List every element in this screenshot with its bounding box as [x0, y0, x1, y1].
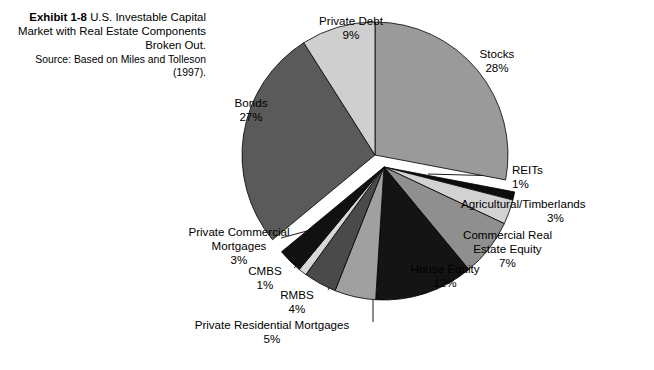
pie-label-reits-name: REITs — [512, 163, 582, 177]
pie-label-bonds-pct: 27% — [206, 110, 296, 124]
pie-label-private-commercial-mortgages-name-line1: Private Commercial — [175, 225, 303, 239]
figure-source: Source: Based on Miles and Tolleson (199… — [10, 53, 206, 80]
figure-caption: Exhibit 1-8 U.S. Investable Capital Mark… — [10, 10, 206, 80]
pie-label-reits-pct: 1% — [512, 177, 582, 191]
pie-label-private-debt-pct: 9% — [296, 28, 406, 42]
pie-label-stocks-name: Stocks — [452, 47, 542, 61]
pie-label-agricultural-timberlands-pct: 3% — [461, 211, 650, 225]
pie-label-bonds-name: Bonds — [206, 96, 296, 110]
pie-label-agricultural-timberlands-name: Agricultural/Timberlands — [461, 197, 650, 211]
pie-label-private-debt: Private Debt 9% — [296, 14, 406, 42]
pie-label-private-residential-mortgages-name: Private Residential Mortgages — [172, 318, 372, 332]
pie-label-rmbs-pct: 4% — [269, 302, 325, 316]
pie-label-agricultural-timberlands: Agricultural/Timberlands 3% — [461, 197, 650, 225]
pie-label-bonds: Bonds 27% — [206, 96, 296, 124]
pie-label-private-residential-mortgages-pct: 5% — [172, 332, 372, 346]
pie-label-rmbs: RMBS 4% — [269, 288, 325, 316]
pie-label-stocks-pct: 28% — [452, 61, 542, 75]
pie-label-private-debt-name: Private Debt — [296, 14, 406, 28]
exhibit-number: Exhibit 1-8 — [29, 11, 87, 23]
exhibit-figure: Exhibit 1-8 U.S. Investable Capital Mark… — [0, 0, 654, 370]
pie-label-private-commercial-mortgages-name-line2: Mortgages — [175, 239, 303, 253]
pie-label-commercial-real-estate-equity-name-line2: Estate Equity — [447, 242, 568, 256]
pie-label-house-equity-name: House Equity — [395, 262, 495, 276]
pie-label-reits: REITs 1% — [512, 163, 582, 191]
pie-label-stocks: Stocks 28% — [452, 47, 542, 75]
pie-label-rmbs-name: RMBS — [269, 288, 325, 302]
pie-label-house-equity: House Equity 12% — [395, 262, 495, 290]
pie-label-cmbs-name: CMBS — [236, 264, 294, 278]
pie-label-private-residential-mortgages: Private Residential Mortgages 5% — [172, 318, 372, 346]
pie-label-private-commercial-mortgages: Private Commercial Mortgages 3% — [175, 225, 303, 266]
pie-label-commercial-real-estate-equity-name-line1: Commercial Real — [447, 228, 568, 242]
pie-label-house-equity-pct: 12% — [395, 276, 495, 290]
slice-stocks[interactable] — [375, 22, 508, 180]
